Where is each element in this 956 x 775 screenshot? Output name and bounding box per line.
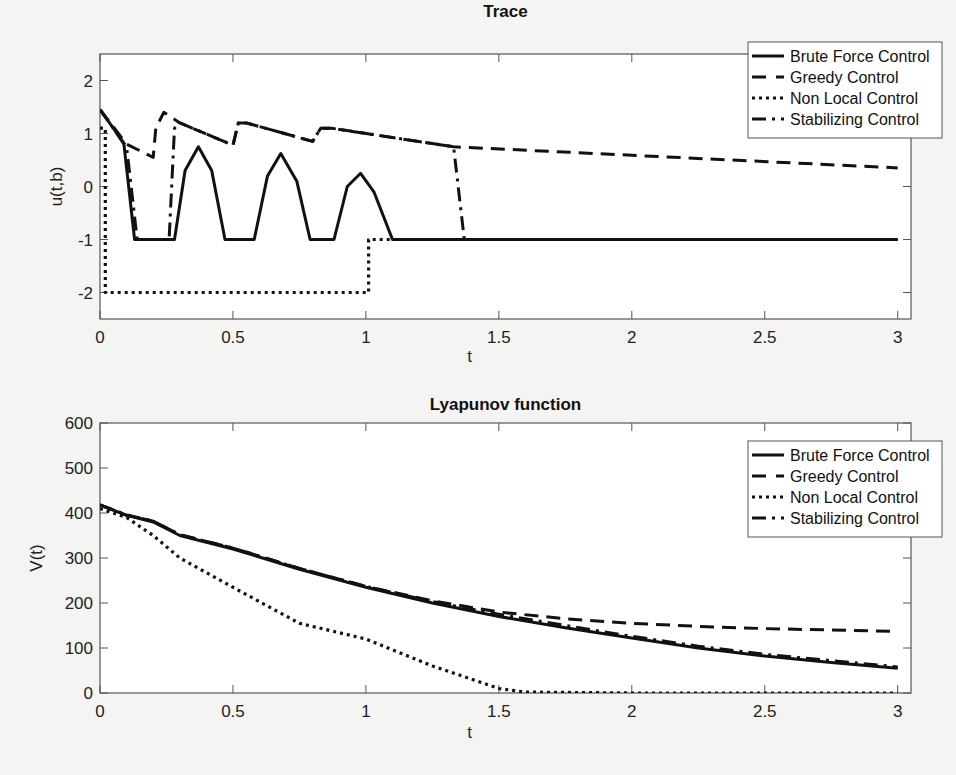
x-tick-label: 0: [95, 702, 104, 721]
y-axis-label: u(t,b): [47, 167, 66, 207]
legend-label: Greedy Control: [790, 69, 899, 86]
y-tick-label: 400: [65, 504, 93, 523]
legend: Brute Force ControlGreedy ControlNon Loc…: [748, 441, 942, 537]
x-tick-label: 2.5: [753, 702, 777, 721]
legend-label: Stabilizing Control: [790, 111, 919, 128]
y-tick-label: 200: [65, 594, 93, 613]
x-tick-label: 0.5: [221, 328, 245, 347]
y-axis-label: V(t): [27, 544, 46, 571]
y-tick-label: 100: [65, 639, 93, 658]
legend-label: Non Local Control: [790, 489, 918, 506]
x-tick-label: 2.5: [753, 328, 777, 347]
legend: Brute Force ControlGreedy ControlNon Loc…: [748, 42, 942, 138]
x-tick-label: 1: [361, 328, 370, 347]
x-tick-label: 3: [893, 328, 902, 347]
y-tick-label: 2: [84, 72, 93, 91]
legend-label: Stabilizing Control: [790, 510, 919, 527]
x-tick-label: 2: [627, 328, 636, 347]
x-tick-label: 1: [361, 702, 370, 721]
x-tick-label: 0.5: [221, 702, 245, 721]
legend-label: Greedy Control: [790, 468, 899, 485]
x-tick-label: 0: [95, 328, 104, 347]
chart-panel-1: Trace00.511.522.53-2-1012tu(t,b)Brute Fo…: [47, 2, 942, 366]
y-tick-label: 300: [65, 549, 93, 568]
chart-title: Lyapunov function: [430, 395, 581, 414]
x-axis-label: t: [467, 723, 472, 742]
x-tick-label: 3: [893, 702, 902, 721]
chart-title: Trace: [483, 2, 527, 21]
x-axis-label: t: [467, 347, 472, 366]
y-tick-label: 0: [84, 178, 93, 197]
y-tick-label: -2: [78, 284, 93, 303]
y-tick-label: 1: [84, 125, 93, 144]
legend-label: Non Local Control: [790, 90, 918, 107]
legend-label: Brute Force Control: [790, 447, 930, 464]
x-tick-label: 2: [627, 702, 636, 721]
x-tick-label: 1.5: [487, 702, 511, 721]
x-tick-label: 1.5: [487, 328, 511, 347]
legend-label: Brute Force Control: [790, 48, 930, 65]
y-tick-label: 600: [65, 414, 93, 433]
y-tick-label: 500: [65, 459, 93, 478]
chart-panel-2: Lyapunov function00.511.522.530100200300…: [27, 395, 942, 742]
figure: Trace00.511.522.53-2-1012tu(t,b)Brute Fo…: [0, 0, 956, 775]
y-tick-label: 0: [84, 684, 93, 703]
y-tick-label: -1: [78, 231, 93, 250]
